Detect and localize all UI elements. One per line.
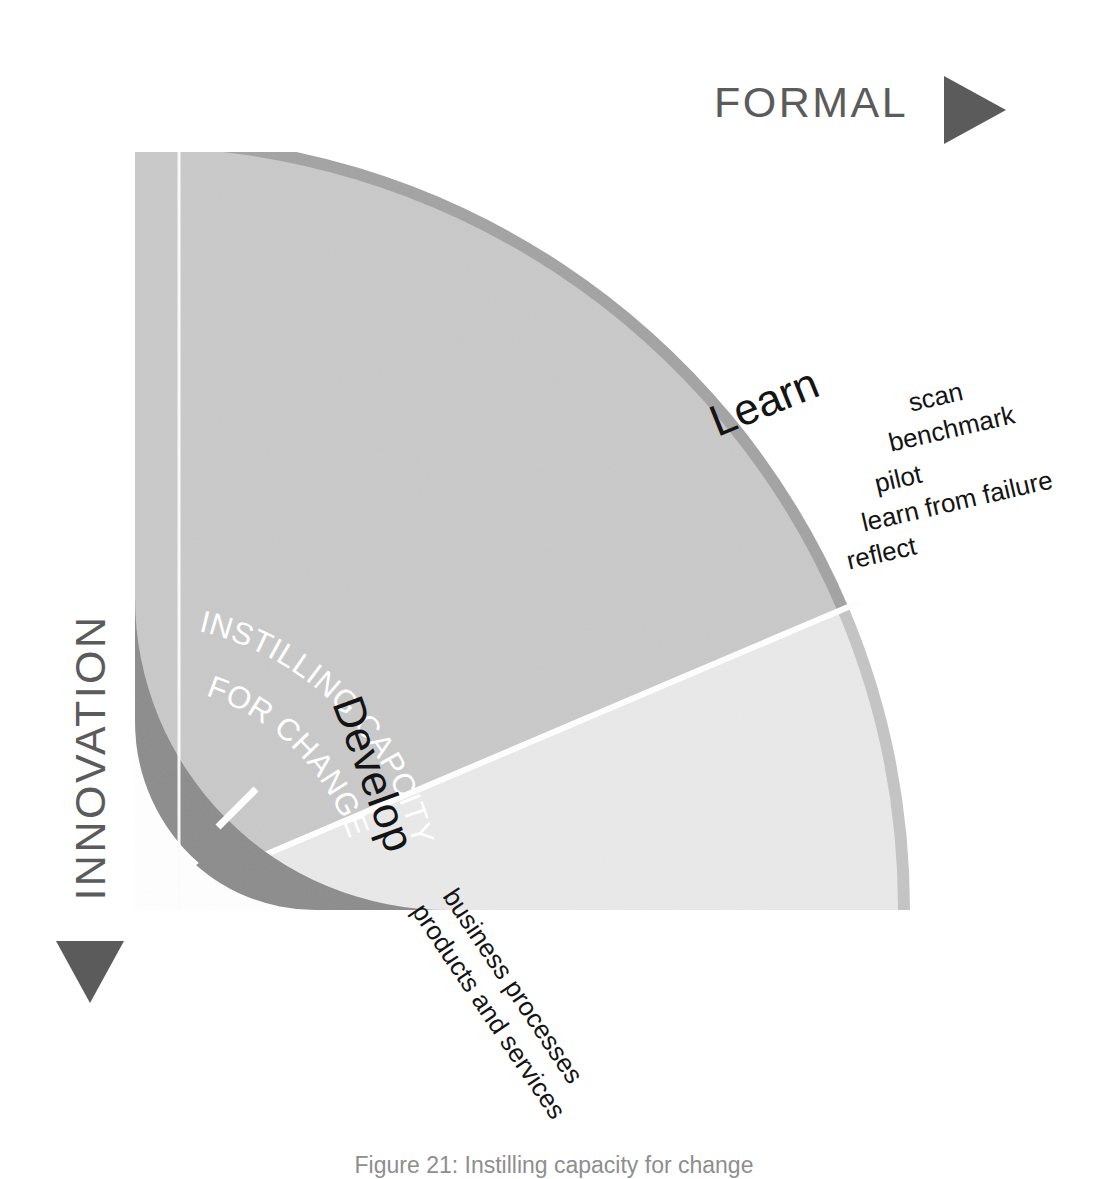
triangle-right-icon <box>944 76 1006 144</box>
triangle-down-icon <box>56 941 124 1003</box>
axis-label-formal: FORMAL <box>714 78 908 127</box>
axis-label-innovation: INNOVATION <box>66 614 115 900</box>
figure-caption: Figure 21: Instilling capacity for chang… <box>0 1152 1108 1179</box>
